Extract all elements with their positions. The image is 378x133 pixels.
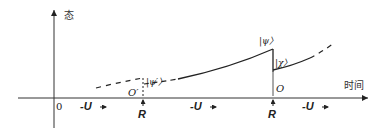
evolution-label-2: -U [190,100,203,112]
y-axis-label: 态 [64,9,74,21]
state-label-psi: |ψ〉 [259,36,278,47]
evolution-label-3: -U [302,100,315,112]
point-label-o-prime: O′ [128,87,139,98]
state-label-psi-prime: |ψ′〉 [146,77,167,88]
state-curve-dashed-end [310,43,334,58]
x-axis-label: 时间 [344,79,364,91]
measurement-label-r2: R [268,108,276,120]
state-label-chi: |χ〉 [275,58,293,69]
quantum-state-evolution-diagram: 态 时间 0 |ψ′〉 O′ |ψ〉 |χ〉 O R R -U -U -U [0,0,378,133]
evolution-label-1: -U [80,100,93,112]
state-curve-solid-mid [178,49,273,79]
measurement-label-r1: R [138,108,146,120]
origin-label: 0 [56,101,62,112]
point-label-o: O [276,83,284,94]
